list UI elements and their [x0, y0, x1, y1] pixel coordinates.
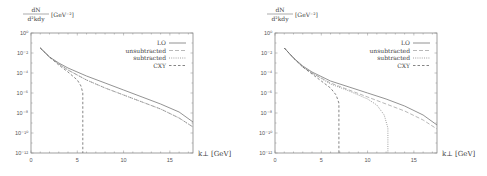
svg-text:10⁰: 10⁰: [264, 30, 273, 36]
svg-text:10⁻¹⁰: 10⁻¹⁰: [259, 130, 273, 136]
legend: LOunsubtractedsubtractedCXY: [369, 39, 430, 69]
svg-text:d²kdy: d²kdy: [27, 15, 45, 23]
y-axis-label: dNd²kdy[GeV⁻²]: [267, 6, 318, 23]
svg-text:0: 0: [29, 157, 32, 163]
svg-text:10⁻²: 10⁻²: [261, 50, 272, 56]
svg-text:10⁻⁶: 10⁻⁶: [261, 90, 272, 96]
left-chart-svg: dNd²kdy[GeV⁻²]10⁰10⁻²10⁻⁴10⁻⁶10⁻⁸10⁻¹⁰10…: [0, 0, 243, 176]
series-unsubtracted-line: [284, 48, 437, 129]
plot-frame: [31, 33, 193, 153]
legend-label: subtracted: [377, 54, 410, 61]
legend-label: LO: [401, 39, 410, 46]
series-LO-line: [284, 48, 437, 125]
x-axis-label: k⊥ [GeV]: [198, 150, 232, 158]
legend-label: unsubtracted: [125, 47, 166, 54]
series-CXY-line: [40, 48, 83, 153]
svg-text:10⁻¹²: 10⁻¹²: [259, 150, 272, 156]
svg-text:10⁻¹⁰: 10⁻¹⁰: [15, 130, 29, 136]
svg-text:15: 15: [411, 157, 417, 163]
svg-text:dN: dN: [31, 6, 40, 13]
svg-text:15: 15: [167, 157, 173, 163]
svg-text:10⁻⁶: 10⁻⁶: [17, 90, 28, 96]
legend-label: CXY: [397, 62, 411, 69]
right-chart-svg: dNd²kdy[GeV⁻²]10⁰10⁻²10⁻⁴10⁻⁶10⁻⁸10⁻¹⁰10…: [244, 0, 487, 176]
svg-text:10⁰: 10⁰: [20, 30, 29, 36]
svg-text:5: 5: [76, 157, 79, 163]
svg-text:10⁻²: 10⁻²: [17, 50, 28, 56]
svg-text:10⁻¹²: 10⁻¹²: [15, 150, 28, 156]
series-LO-line: [40, 48, 193, 122]
left-plot: dNd²kdy[GeV⁻²]10⁰10⁻²10⁻⁴10⁻⁶10⁻⁸10⁻¹⁰10…: [0, 0, 243, 176]
svg-text:0: 0: [273, 157, 276, 163]
legend-label: unsubtracted: [369, 47, 410, 54]
y-axis-label: dNd²kdy[GeV⁻²]: [23, 6, 74, 23]
series-subtracted-line: [284, 48, 388, 153]
svg-text:10: 10: [365, 157, 371, 163]
svg-text:10⁻⁴: 10⁻⁴: [17, 70, 29, 76]
svg-text:5: 5: [320, 157, 323, 163]
x-axis-label: k⊥ [GeV]: [442, 150, 476, 158]
legend-label: subtracted: [133, 54, 166, 61]
legend-label: CXY: [153, 62, 167, 69]
y-axis-ticks: 10⁰10⁻²10⁻⁴10⁻⁶10⁻⁸10⁻¹⁰10⁻¹²: [259, 30, 437, 156]
svg-text:10⁻⁸: 10⁻⁸: [17, 110, 28, 116]
svg-text:10: 10: [121, 157, 127, 163]
svg-text:[GeV⁻²]: [GeV⁻²]: [295, 11, 318, 18]
svg-text:[GeV⁻²]: [GeV⁻²]: [51, 11, 74, 18]
legend-label: LO: [157, 39, 166, 46]
svg-text:10⁻⁸: 10⁻⁸: [261, 110, 272, 116]
right-plot: dNd²kdy[GeV⁻²]10⁰10⁻²10⁻⁴10⁻⁶10⁻⁸10⁻¹⁰10…: [244, 0, 487, 176]
svg-text:10⁻⁴: 10⁻⁴: [261, 70, 273, 76]
plot-frame: [275, 33, 437, 153]
svg-text:dN: dN: [275, 6, 284, 13]
svg-text:d²kdy: d²kdy: [271, 15, 289, 23]
legend: LOunsubtractedsubtractedCXY: [125, 39, 186, 69]
series-CXY-line: [284, 48, 339, 153]
